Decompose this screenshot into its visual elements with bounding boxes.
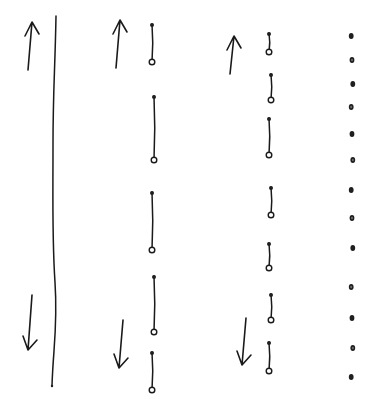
short-segments-segment-top-bead xyxy=(267,341,271,345)
segmented-line-segment xyxy=(154,96,155,160)
isolated-dot xyxy=(349,374,354,380)
segmented-line-segment-top-bead xyxy=(150,23,154,27)
isolated-dot-highlight xyxy=(351,59,353,62)
short-segments-segment xyxy=(271,187,272,215)
short-segments-segment xyxy=(269,243,270,268)
continuous-line-arrow-stroke xyxy=(25,22,39,70)
isolated-dot-highlight xyxy=(350,286,352,289)
short-segments-segment-bottom-bead xyxy=(266,49,272,55)
short-segments-segment-top-bead xyxy=(269,293,273,297)
hand-drawn-diagram xyxy=(0,0,386,411)
segmented-line-segment-top-bead xyxy=(150,191,154,195)
isolated-dot-highlight xyxy=(352,347,354,350)
segmented-line-segment-bottom-bead xyxy=(151,329,157,335)
arrow-down-icon xyxy=(114,320,128,368)
short-segments-arrow-stroke xyxy=(227,36,241,74)
arrow-up-icon xyxy=(227,36,241,74)
continuous-line-arrow-stroke xyxy=(23,295,37,350)
isolated-dot-highlight xyxy=(350,106,352,109)
short-segments-segment-bottom-bead xyxy=(268,97,274,103)
short-segments-segment xyxy=(271,294,272,320)
short-segments-segment-bottom-bead xyxy=(268,212,274,218)
isolated-dot-highlight xyxy=(352,159,354,162)
continuous-line xyxy=(52,16,56,386)
short-segments-segment-bottom-bead xyxy=(266,265,272,271)
segmented-line-segment-bottom-bead xyxy=(149,247,155,253)
segmented-line-segment xyxy=(152,192,153,250)
short-segments-segment-top-bead xyxy=(267,32,271,36)
short-segments-segment xyxy=(269,342,270,371)
segmented-line-segment-bottom-bead xyxy=(151,157,157,163)
short-segments-segment xyxy=(269,118,270,155)
isolated-dot xyxy=(349,33,354,39)
segmented-line-segment xyxy=(152,24,153,62)
segmented-line-segment-top-bead xyxy=(150,351,154,355)
segmented-line-segment-top-bead xyxy=(152,275,156,279)
sketch-canvas xyxy=(0,0,386,411)
short-segments-segment xyxy=(271,74,272,100)
short-segments-segment-bottom-bead xyxy=(268,317,274,323)
isolated-dot xyxy=(350,81,355,87)
short-segments-segment-top-bead xyxy=(267,242,271,246)
segmented-line-arrow-stroke xyxy=(113,20,127,68)
short-segments-segment-bottom-bead xyxy=(266,152,272,158)
arrow-up-icon xyxy=(113,20,127,68)
isolated-dot xyxy=(350,315,355,321)
arrow-up-icon xyxy=(25,22,39,70)
segmented-line-segment xyxy=(154,276,155,332)
segmented-line-segment-bottom-bead xyxy=(149,387,155,393)
arrow-down-icon xyxy=(237,318,251,365)
short-segments-segment-top-bead xyxy=(267,117,271,121)
arrow-down-icon xyxy=(23,295,37,350)
segmented-line-segment-top-bead xyxy=(152,95,156,99)
isolated-dot xyxy=(350,245,355,251)
short-segments-segment-top-bead xyxy=(269,186,273,190)
line-end-dot xyxy=(51,385,53,387)
segmented-line-arrow-stroke xyxy=(114,320,128,368)
segmented-line-segment-bottom-bead xyxy=(149,59,155,65)
isolated-dot xyxy=(349,187,354,193)
short-segments-segment-top-bead xyxy=(269,73,273,77)
short-segments-arrow-stroke xyxy=(237,318,251,365)
isolated-dot xyxy=(350,131,355,137)
short-segments-segment-bottom-bead xyxy=(266,368,272,374)
isolated-dot-highlight xyxy=(351,217,353,220)
segmented-line-segment xyxy=(152,352,153,390)
